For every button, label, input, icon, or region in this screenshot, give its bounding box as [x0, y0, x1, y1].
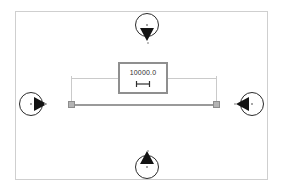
linear-dimension-icon [135, 80, 151, 88]
view-marker-center-dot [251, 103, 253, 105]
view-marker-tick-right [234, 103, 236, 105]
view-marker-top[interactable] [135, 13, 161, 39]
view-marker-left[interactable] [19, 92, 45, 118]
view-cone-icon [236, 97, 249, 111]
view-cone-icon [140, 151, 154, 164]
dimension-label[interactable]: 10000.0 [118, 62, 168, 94]
measure-grip-start[interactable] [68, 101, 75, 108]
view-marker-tick-top [147, 42, 149, 44]
view-marker-center-dot [146, 166, 148, 168]
dimension-extension-line-left [71, 76, 72, 104]
cad-measure-viewport[interactable]: 10000.0 [0, 0, 283, 191]
view-marker-center-dot [146, 24, 148, 26]
view-marker-right[interactable] [240, 92, 266, 118]
view-marker-center-dot [30, 103, 32, 105]
view-marker-tick-left [44, 103, 46, 105]
measure-line[interactable] [71, 104, 216, 106]
measure-grip-end[interactable] [213, 101, 220, 108]
view-cone-icon [140, 28, 154, 41]
view-marker-bottom[interactable] [135, 155, 161, 181]
dimension-value-text: 10000.0 [130, 68, 157, 77]
dimension-extension-line-right [216, 76, 217, 104]
view-marker-tick-bottom [147, 150, 149, 152]
